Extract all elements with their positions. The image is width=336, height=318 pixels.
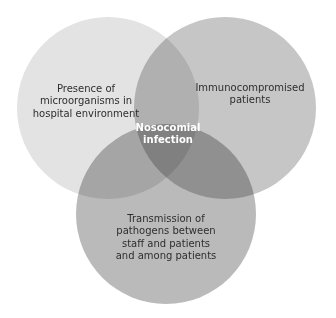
label-transmission: Transmission of pathogens between staff … [116,213,217,262]
venn-diagram [0,0,336,318]
label-microorganisms: Presence of microorganisms in hospital e… [33,83,139,120]
label-immunocompromised: Immunocompromised patients [195,82,304,107]
label-nosocomial-infection: Nosocomial infection [136,122,201,146]
